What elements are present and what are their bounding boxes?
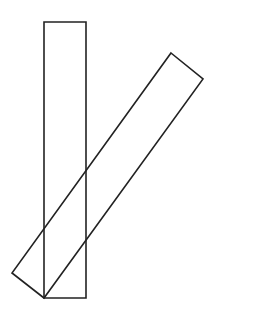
tilted-rectangle [12,53,203,298]
diagram-canvas [0,0,276,317]
vertical-rectangle [44,22,86,298]
